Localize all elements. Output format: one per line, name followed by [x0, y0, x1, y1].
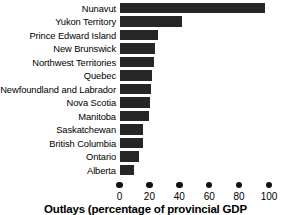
bar-row: Saskatchewan: [0, 123, 291, 137]
category-label: Quebec: [84, 69, 116, 83]
tick-dot-marker: [116, 182, 122, 188]
bar-row: Prince Edward Island: [0, 29, 291, 43]
bar: [120, 97, 151, 107]
tick-dot-marker: [236, 182, 242, 188]
bar-row: Newfoundland and Labrador: [0, 83, 291, 97]
category-label: Nova Scotia: [67, 96, 116, 110]
tick-dot-marker: [176, 182, 182, 188]
bar-row: Nunavut: [0, 2, 291, 16]
bar-row: Yukon Territory: [0, 15, 291, 29]
category-label: Nunavut: [82, 2, 116, 16]
x-axis-title: Outlays (percentage of provincial GDP: [0, 203, 291, 215]
category-label: Newfoundland and Labrador: [0, 83, 116, 97]
bar: [120, 16, 183, 26]
bar-row: Ontario: [0, 150, 291, 164]
category-label: Ontario: [86, 150, 116, 164]
bar: [120, 30, 159, 40]
bar: [120, 111, 150, 121]
x-axis-tick-label: 100: [249, 191, 289, 202]
tick-dot-marker: [206, 182, 212, 188]
category-label: Prince Edward Island: [29, 29, 116, 43]
bar: [120, 151, 139, 161]
bar-row: British Columbia: [0, 137, 291, 151]
bar: [120, 57, 154, 67]
category-label: Manitoba: [78, 110, 116, 124]
bar: [120, 84, 151, 94]
bar-row: Northwest Territories: [0, 56, 291, 70]
bar: [120, 165, 135, 175]
category-label: British Columbia: [49, 137, 116, 151]
category-label: Northwest Territories: [32, 56, 116, 70]
plot-area: NunavutYukon TerritoryPrince Edward Isla…: [0, 0, 291, 180]
category-label: Alberta: [87, 164, 116, 178]
tick-dot-marker: [266, 182, 272, 188]
bar-row: Manitoba: [0, 110, 291, 124]
bar: [120, 43, 156, 53]
bar: [120, 124, 144, 134]
bar: [120, 3, 265, 13]
bar-chart: NunavutYukon TerritoryPrince Edward Isla…: [0, 0, 291, 215]
tick-dot-marker: [146, 182, 152, 188]
bar-row: Nova Scotia: [0, 96, 291, 110]
category-label: Yukon Territory: [55, 15, 116, 29]
bar-row: New Brunswick: [0, 42, 291, 56]
bar-row: Quebec: [0, 69, 291, 83]
bar: [120, 70, 153, 80]
category-label: Saskatchewan: [56, 123, 116, 137]
bar-row: Alberta: [0, 164, 291, 178]
bar: [120, 138, 144, 148]
category-label: New Brunswick: [53, 42, 116, 56]
